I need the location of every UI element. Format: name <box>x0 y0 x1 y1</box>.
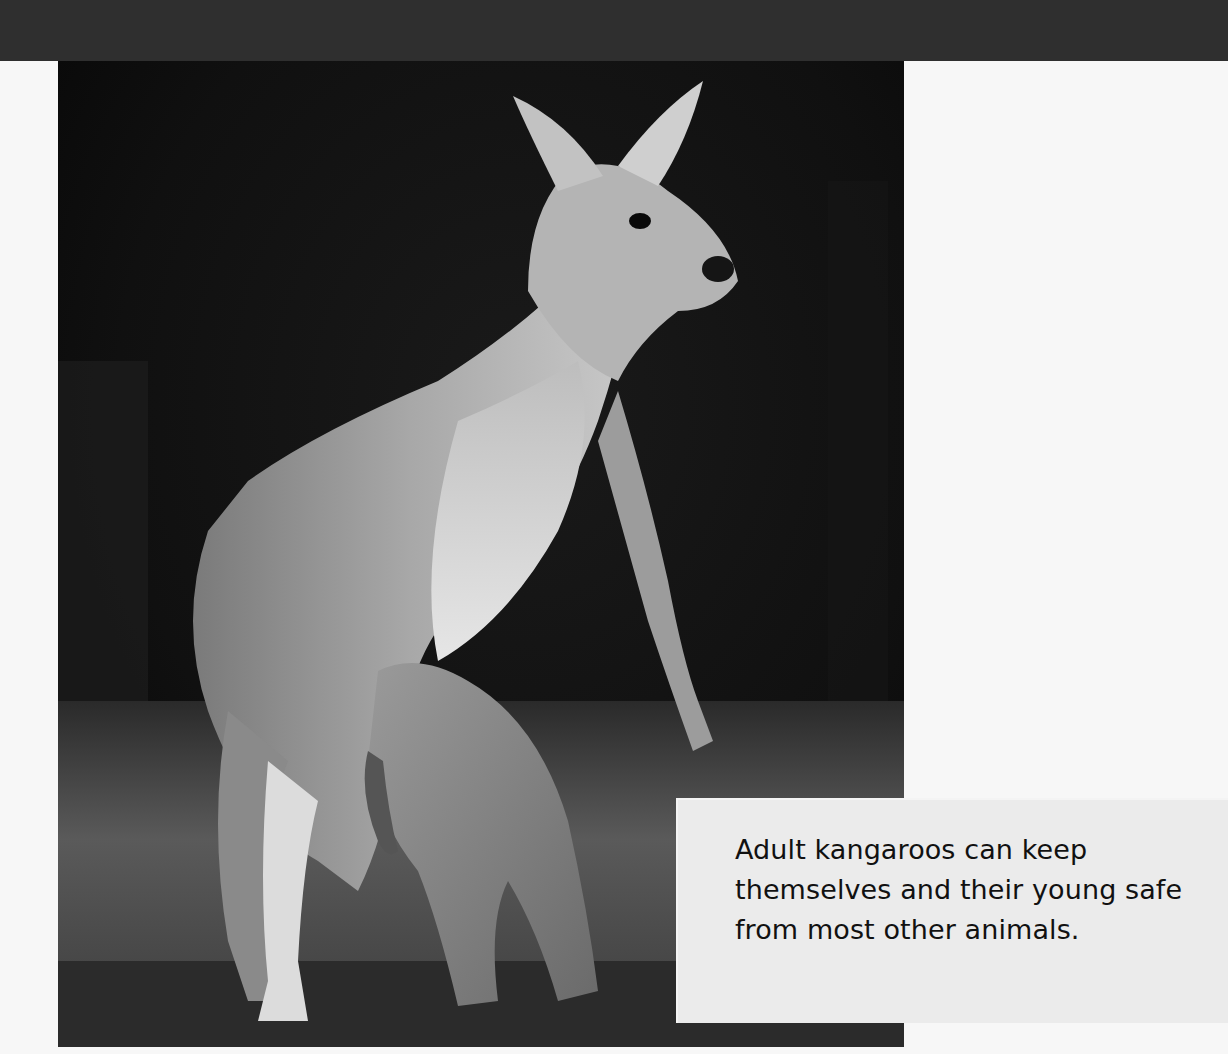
header-band <box>0 0 1228 61</box>
caption-box: Adult kangaroos can keep themselves and … <box>676 798 1228 1023</box>
caption-text: Adult kangaroos can keep themselves and … <box>735 830 1228 950</box>
